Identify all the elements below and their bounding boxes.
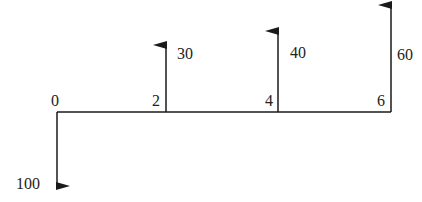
amount-label-60: 60 bbox=[397, 46, 413, 63]
cash-flow-period-0: 0 100 bbox=[16, 92, 59, 192]
amount-label-40: 40 bbox=[290, 44, 306, 61]
period-label-0: 0 bbox=[51, 92, 59, 109]
cash-flow-period-2: 2 30 bbox=[152, 45, 193, 112]
period-label-4: 4 bbox=[265, 92, 273, 109]
cash-flow-diagram: 0 100 2 30 4 40 6 60 bbox=[0, 0, 422, 202]
period-label-6: 6 bbox=[377, 92, 385, 109]
period-label-2: 2 bbox=[152, 92, 160, 109]
cash-flow-period-6: 6 60 bbox=[377, 5, 413, 112]
amount-label-30: 30 bbox=[177, 45, 193, 62]
cash-flow-period-4: 4 40 bbox=[265, 31, 306, 112]
amount-label-100: 100 bbox=[16, 175, 40, 192]
